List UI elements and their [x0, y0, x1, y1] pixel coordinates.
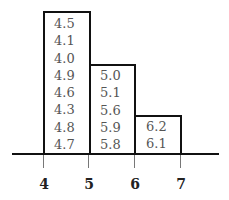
value: 4.5	[54, 15, 75, 32]
value: 6.2	[146, 118, 167, 135]
value: 4.0	[54, 50, 75, 67]
x-tick-label-5: 5	[79, 176, 99, 192]
value: 4.3	[54, 101, 75, 118]
value: 5.0	[100, 67, 121, 84]
value: 6.1	[146, 135, 167, 152]
value: 5.6	[100, 102, 121, 119]
x-tick-6	[134, 155, 135, 168]
value: 5.9	[100, 119, 121, 136]
value: 5.1	[100, 84, 121, 101]
value: 5.8	[100, 136, 121, 153]
value: 4.6	[54, 84, 75, 101]
x-tick-label-4: 4	[34, 176, 54, 192]
x-tick-label-7: 7	[171, 176, 191, 192]
value: 4.7	[54, 136, 75, 153]
x-tick-7	[180, 155, 181, 168]
value: 4.9	[54, 67, 75, 84]
value: 4.1	[54, 32, 75, 49]
x-tick-5	[88, 155, 89, 168]
x-tick-4	[43, 155, 44, 168]
x-tick-label-6: 6	[125, 176, 145, 192]
value: 4.8	[54, 119, 75, 136]
bin-4-5-values: 4.5 4.1 4.0 4.9 4.6 4.3 4.8 4.7	[54, 15, 75, 153]
bin-6-7-values: 6.2 6.1	[146, 118, 167, 153]
bin-5-6-values: 5.0 5.1 5.6 5.9 5.8	[100, 67, 121, 153]
